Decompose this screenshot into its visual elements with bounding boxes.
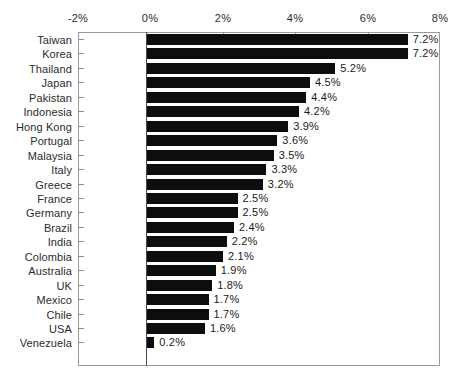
bar-value-label: 4.2% bbox=[304, 105, 330, 118]
bar-row: Hong Kong3.9% bbox=[0, 120, 454, 134]
category-tick bbox=[78, 328, 84, 329]
bar[interactable] bbox=[147, 222, 234, 233]
bar[interactable] bbox=[147, 150, 274, 161]
category-label: Greece bbox=[0, 178, 72, 192]
category-tick bbox=[78, 227, 84, 228]
category-label: Brazil bbox=[0, 221, 72, 235]
bar-value-label: 7.2% bbox=[413, 47, 439, 60]
bar[interactable] bbox=[147, 323, 205, 334]
bar[interactable] bbox=[147, 179, 263, 190]
bar-row: Chile1.7% bbox=[0, 308, 454, 322]
x-axis-tick-label: 8% bbox=[432, 12, 448, 24]
category-tick bbox=[78, 155, 84, 156]
bar-row: Australia1.9% bbox=[0, 264, 454, 278]
bar-value-label: 3.3% bbox=[271, 163, 297, 176]
category-label: Pakistan bbox=[0, 91, 72, 105]
bar-row: Indonesia4.2% bbox=[0, 105, 454, 119]
bar[interactable] bbox=[147, 63, 335, 74]
bar-row: Portugal3.6% bbox=[0, 134, 454, 148]
bar-value-label: 4.4% bbox=[311, 91, 337, 104]
category-tick bbox=[78, 270, 84, 271]
bar-row: Japan4.5% bbox=[0, 76, 454, 90]
x-axis-tick-label: -2% bbox=[68, 12, 88, 24]
bar[interactable] bbox=[147, 265, 216, 276]
bar-value-label: 7.2% bbox=[413, 33, 439, 46]
bar-value-label: 2.2% bbox=[232, 235, 258, 248]
category-tick bbox=[78, 97, 84, 98]
x-axis-tick-label: 0% bbox=[142, 12, 158, 24]
bar-value-label: 5.2% bbox=[340, 62, 366, 75]
bar-value-label: 0.2% bbox=[159, 336, 185, 349]
bar-row: USA1.6% bbox=[0, 322, 454, 336]
bar[interactable] bbox=[147, 337, 154, 348]
bar-row: Germany2.5% bbox=[0, 206, 454, 220]
bar[interactable] bbox=[147, 309, 209, 320]
bar-row: Brazil2.4% bbox=[0, 221, 454, 235]
bar-row: Mexico1.7% bbox=[0, 293, 454, 307]
bar-value-label: 3.6% bbox=[282, 134, 308, 147]
category-tick bbox=[78, 212, 84, 213]
bar[interactable] bbox=[147, 280, 212, 291]
category-label: India bbox=[0, 235, 72, 249]
bar-row: Korea7.2% bbox=[0, 47, 454, 61]
category-label: Germany bbox=[0, 206, 72, 220]
bar-value-label: 1.9% bbox=[221, 264, 247, 277]
bar-row: Venezuela0.2% bbox=[0, 336, 454, 350]
category-label: Thailand bbox=[0, 62, 72, 76]
bar-row: Malaysia3.5% bbox=[0, 149, 454, 163]
bar-value-label: 2.1% bbox=[228, 250, 254, 263]
category-label: Colombia bbox=[0, 250, 72, 264]
category-label: Italy bbox=[0, 163, 72, 177]
category-label: Australia bbox=[0, 264, 72, 278]
bar-chart: -2%0%2%4%6%8% Taiwan7.2%Korea7.2%Thailan… bbox=[0, 0, 454, 376]
bar-row: Taiwan7.2% bbox=[0, 33, 454, 47]
category-label: USA bbox=[0, 322, 72, 336]
bar-row: Pakistan4.4% bbox=[0, 91, 454, 105]
bar-value-label: 1.7% bbox=[214, 293, 240, 306]
category-label: Taiwan bbox=[0, 33, 72, 47]
category-label: Portugal bbox=[0, 134, 72, 148]
bar-row: Italy3.3% bbox=[0, 163, 454, 177]
category-label: UK bbox=[0, 279, 72, 293]
category-tick bbox=[78, 256, 84, 257]
category-tick bbox=[78, 39, 84, 40]
bar[interactable] bbox=[147, 207, 238, 218]
bar-value-label: 1.6% bbox=[210, 322, 236, 335]
bar-row: France2.5% bbox=[0, 192, 454, 206]
category-tick bbox=[78, 140, 84, 141]
x-axis-tick-label: 6% bbox=[360, 12, 376, 24]
category-tick bbox=[78, 342, 84, 343]
bar[interactable] bbox=[147, 294, 209, 305]
bar[interactable] bbox=[147, 92, 306, 103]
bar[interactable] bbox=[147, 77, 310, 88]
category-label: Korea bbox=[0, 47, 72, 61]
x-axis-tick-label: 2% bbox=[215, 12, 231, 24]
bar[interactable] bbox=[147, 121, 288, 132]
bar[interactable] bbox=[147, 106, 299, 117]
bar[interactable] bbox=[147, 34, 408, 45]
category-label: Chile bbox=[0, 308, 72, 322]
x-axis-tick-label: 4% bbox=[287, 12, 303, 24]
bar-value-label: 3.9% bbox=[293, 120, 319, 133]
category-tick bbox=[78, 198, 84, 199]
category-tick bbox=[78, 299, 84, 300]
bar[interactable] bbox=[147, 48, 408, 59]
category-label: Malaysia bbox=[0, 149, 72, 163]
bar-value-label: 2.5% bbox=[243, 192, 269, 205]
bar[interactable] bbox=[147, 236, 227, 247]
category-tick bbox=[78, 314, 84, 315]
bar[interactable] bbox=[147, 251, 223, 262]
category-tick bbox=[78, 82, 84, 83]
bar[interactable] bbox=[147, 193, 238, 204]
bar[interactable] bbox=[147, 164, 266, 175]
bar-value-label: 3.2% bbox=[268, 178, 294, 191]
bar-value-label: 2.4% bbox=[239, 221, 265, 234]
bar-row: Colombia2.1% bbox=[0, 250, 454, 264]
category-tick bbox=[78, 111, 84, 112]
category-label: Japan bbox=[0, 76, 72, 90]
category-label: Mexico bbox=[0, 293, 72, 307]
bar[interactable] bbox=[147, 135, 277, 146]
bar-value-label: 1.8% bbox=[217, 279, 243, 292]
category-label: Hong Kong bbox=[0, 120, 72, 134]
bar-row: India2.2% bbox=[0, 235, 454, 249]
